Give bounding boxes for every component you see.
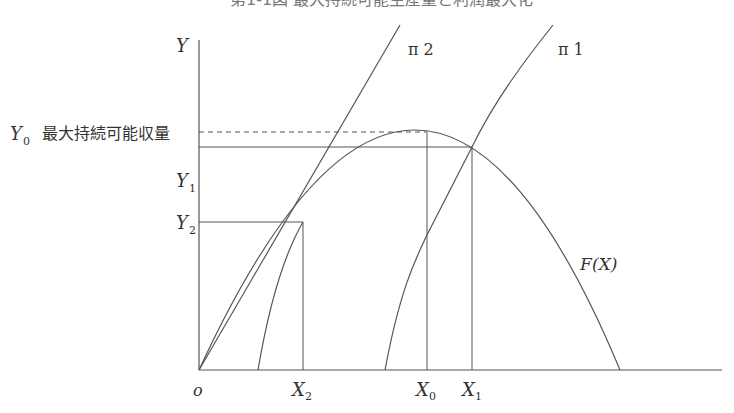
x2-label: X 2 — [290, 379, 312, 403]
y1-label: Y 1 — [176, 170, 196, 195]
x1-label: X 1 — [460, 379, 482, 403]
svg-text:X: X — [290, 379, 306, 400]
y0-label: Y 0 最大持続可能収量 — [10, 123, 170, 148]
svg-text:0: 0 — [429, 390, 436, 403]
origin-label: o — [193, 381, 203, 400]
pi1-curve — [385, 25, 553, 370]
yield-effort-diagram: 第1-1図 最大持続可能生産量と利潤最大化 Y Y 0 最大持続可能収量 Y 1… — [0, 0, 734, 413]
svg-text:Y: Y — [176, 170, 190, 191]
y-axis-label: Y — [176, 35, 190, 56]
svg-text:2: 2 — [189, 224, 196, 237]
msy-label: 最大持続可能収量 — [42, 124, 170, 143]
pi2-label: π 2 — [408, 40, 434, 59]
svg-text:X: X — [460, 379, 476, 400]
fx-curve — [199, 130, 620, 370]
figure-title: 第1-1図 最大持続可能生産量と利潤最大化 — [230, 0, 533, 9]
svg-text:1: 1 — [189, 182, 196, 195]
svg-text:2: 2 — [305, 390, 312, 403]
svg-text:(X): (X) — [592, 254, 617, 274]
svg-text:X: X — [414, 379, 430, 400]
fx-label: F (X) — [579, 254, 617, 274]
x0-label: X 0 — [414, 379, 436, 403]
svg-text:0: 0 — [23, 135, 30, 148]
pi2-line — [199, 25, 400, 370]
y2-label: Y 2 — [176, 212, 196, 237]
svg-text:Y: Y — [176, 212, 190, 233]
pi2-curve — [258, 222, 303, 370]
pi1-label: π 1 — [558, 40, 584, 59]
svg-text:1: 1 — [475, 390, 482, 403]
svg-text:F: F — [579, 254, 593, 274]
svg-text:Y: Y — [10, 123, 24, 144]
